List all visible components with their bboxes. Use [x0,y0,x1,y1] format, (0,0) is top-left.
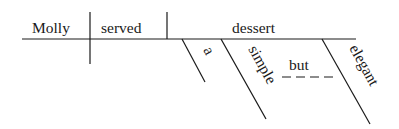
article-word: a [200,43,218,57]
object-word: dessert [232,19,276,36]
sentence-diagram: Molly served dessert a simple elegant bu… [0,0,399,129]
modifier-line-a [182,39,205,82]
adjective-word-elegant: elegant [346,41,383,89]
verb-word: served [101,19,142,36]
adjective-word-simple: simple [245,42,280,86]
subject-word: Molly [32,19,70,36]
conjunction-word: but [289,56,310,73]
